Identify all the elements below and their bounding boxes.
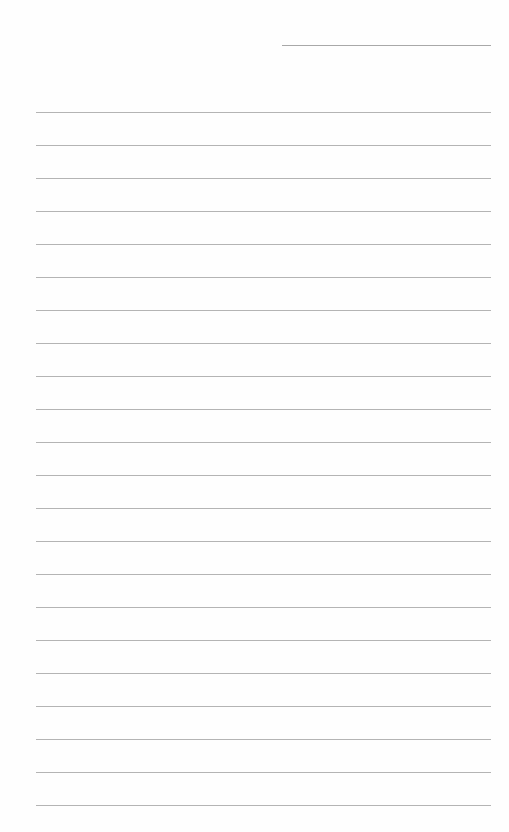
ruled-line	[36, 574, 491, 575]
ruled-line	[36, 508, 491, 509]
ruled-line	[36, 475, 491, 476]
ruled-line	[36, 805, 491, 806]
ruled-line	[36, 442, 491, 443]
ruled-line	[36, 739, 491, 740]
ruled-line	[36, 607, 491, 608]
ruled-line	[36, 112, 491, 113]
ruled-line	[36, 541, 491, 542]
header-line	[282, 45, 491, 46]
ruled-line	[36, 178, 491, 179]
ruled-line	[36, 376, 491, 377]
ruled-line	[36, 310, 491, 311]
ruled-line	[36, 706, 491, 707]
lined-paper-page	[0, 0, 509, 832]
ruled-line	[36, 640, 491, 641]
ruled-line	[36, 277, 491, 278]
ruled-line	[36, 211, 491, 212]
ruled-line	[36, 244, 491, 245]
ruled-line	[36, 673, 491, 674]
ruled-line	[36, 409, 491, 410]
ruled-line	[36, 772, 491, 773]
ruled-line	[36, 145, 491, 146]
ruled-line	[36, 343, 491, 344]
